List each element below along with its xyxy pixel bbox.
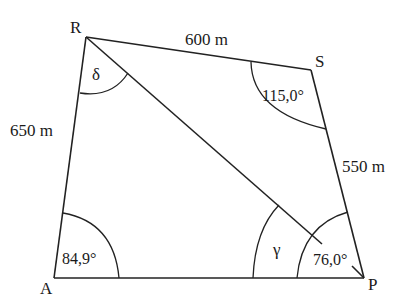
vertex-label-r: R xyxy=(70,18,82,37)
side-ar xyxy=(54,37,86,278)
side-label-rs: 600 m xyxy=(185,30,228,49)
side-label-ar: 650 m xyxy=(10,121,53,140)
quadrilateral-diagram: R S A P 600 m 550 m 650 m δ 115,0° 84,9°… xyxy=(0,0,404,297)
angle-arc-a xyxy=(63,213,119,278)
angle-label-delta: δ xyxy=(92,65,100,84)
vertex-label-s: S xyxy=(315,52,324,71)
angle-label-a: 84,9° xyxy=(62,250,96,267)
angle-arc-p xyxy=(297,212,348,278)
vertex-label-a: A xyxy=(40,279,53,297)
vertex-label-p: P xyxy=(368,275,377,294)
side-label-sp: 550 m xyxy=(342,157,385,176)
angle-arc-r xyxy=(80,73,128,94)
diagonal-rp xyxy=(86,37,322,244)
angle-label-gamma: γ xyxy=(272,240,281,259)
angle-label-s: 115,0° xyxy=(262,87,304,104)
angle-label-p: 76,0° xyxy=(313,251,347,268)
